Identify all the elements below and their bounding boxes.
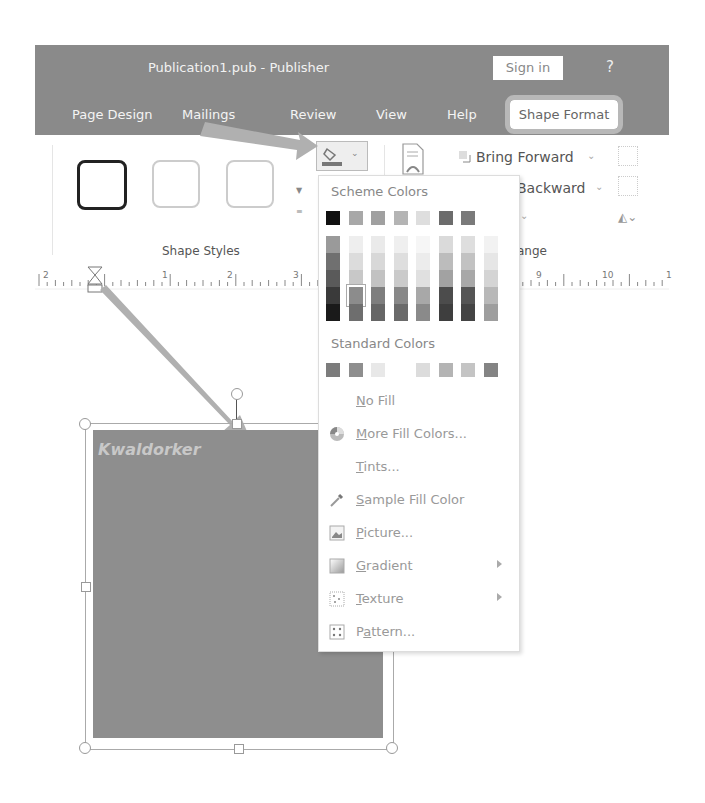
scheme-color-swatch[interactable] (349, 211, 363, 225)
standard-color-swatch[interactable] (461, 363, 475, 377)
scheme-tint-swatch[interactable] (484, 287, 498, 304)
chevron-down-icon[interactable]: ⌄ (520, 210, 528, 221)
menu-item-tints[interactable]: Tints... (319, 453, 519, 483)
scheme-tint-swatch[interactable] (371, 270, 385, 287)
scheme-tint-swatch[interactable] (484, 270, 498, 287)
resize-handle-bottom-right[interactable] (386, 742, 398, 754)
resize-handle-top[interactable] (232, 419, 242, 429)
ruler-label: 9 (536, 270, 542, 280)
scheme-tint-swatch[interactable] (461, 236, 475, 253)
resize-handle-bottom[interactable] (234, 744, 244, 754)
scheme-tint-swatch[interactable] (394, 304, 408, 321)
scheme-tint-swatch[interactable] (439, 270, 453, 287)
standard-color-swatch[interactable] (439, 363, 453, 377)
scheme-tint-swatch[interactable] (394, 270, 408, 287)
menu-item-sample-fill-color[interactable]: Sample Fill Color (319, 486, 519, 516)
scheme-tint-swatch[interactable] (371, 236, 385, 253)
scheme-tint-swatch[interactable] (326, 253, 340, 270)
scheme-tint-swatch[interactable] (484, 304, 498, 321)
scheme-tint-swatch[interactable] (326, 270, 340, 287)
scheme-tint-swatch[interactable] (416, 287, 430, 304)
resize-handle-bottom-left[interactable] (79, 742, 91, 754)
menu-item-no-fill[interactable]: No Fill (319, 387, 519, 417)
scheme-tint-swatch[interactable] (439, 304, 453, 321)
tab-mailings[interactable]: Mailings (182, 107, 235, 122)
scheme-color-swatch[interactable] (439, 211, 453, 225)
tab-shape-format[interactable]: Shape Format (510, 100, 618, 129)
standard-color-swatch[interactable] (416, 363, 430, 377)
menu-item-more-fill-colors[interactable]: More Fill Colors... (319, 420, 519, 450)
standard-color-swatch[interactable] (326, 363, 340, 377)
menu-item-label: No Fill (356, 393, 395, 408)
tab-review[interactable]: Review (290, 107, 336, 122)
shape-outline-doc-icon[interactable] (400, 142, 426, 176)
scheme-tint-swatch[interactable] (394, 287, 408, 304)
shape-text[interactable]: Kwaldorker (98, 440, 201, 459)
scheme-color-swatch[interactable] (461, 211, 475, 225)
indent-marker-icon[interactable] (86, 266, 104, 300)
scheme-color-swatch[interactable] (326, 211, 340, 225)
tab-page-design[interactable]: Page Design (72, 107, 153, 122)
resize-handle-left[interactable] (81, 582, 91, 592)
scheme-tint-swatch[interactable] (349, 304, 363, 321)
gallery-scroll-down-icon[interactable]: ▼ (296, 186, 302, 195)
standard-color-swatch[interactable] (484, 363, 498, 377)
ruler-label: 3 (293, 270, 299, 280)
rotation-handle[interactable] (231, 388, 243, 400)
menu-item-label: Sample Fill Color (356, 492, 464, 507)
scheme-tint-swatch[interactable] (461, 287, 475, 304)
scheme-tint-swatch[interactable] (416, 304, 430, 321)
gallery-more-icon[interactable]: ≡ (296, 207, 303, 216)
standard-color-swatch[interactable] (371, 363, 385, 377)
scheme-tint-swatch[interactable] (326, 236, 340, 253)
shape-style-2[interactable] (152, 160, 200, 208)
scheme-tint-swatch[interactable] (349, 253, 363, 270)
scheme-tint-swatch[interactable] (461, 270, 475, 287)
shape-style-1[interactable] (77, 160, 127, 210)
rotate-icon[interactable]: ◭⌄ (618, 210, 637, 224)
scheme-tint-swatch[interactable] (416, 236, 430, 253)
menu-item-picture[interactable]: Picture... (319, 519, 519, 549)
standard-color-swatch[interactable] (349, 363, 363, 377)
menu-item-pattern[interactable]: Pattern... (319, 618, 519, 648)
scheme-color-swatch[interactable] (371, 211, 385, 225)
menu-item-texture[interactable]: Texture (319, 585, 519, 615)
resize-handle-top-left[interactable] (79, 418, 91, 430)
scheme-tint-swatch[interactable] (371, 287, 385, 304)
scheme-tint-swatch[interactable] (484, 253, 498, 270)
menu-item-label: More Fill Colors... (356, 426, 467, 441)
scheme-tint-swatch[interactable] (326, 287, 340, 304)
scheme-tint-swatch[interactable] (394, 253, 408, 270)
scheme-tint-swatch[interactable] (439, 236, 453, 253)
tab-help[interactable]: Help (447, 107, 477, 122)
menu-item-gradient[interactable]: Gradient (319, 552, 519, 582)
shape-style-3[interactable] (226, 160, 274, 208)
scheme-tint-swatch[interactable] (439, 287, 453, 304)
help-button[interactable]: ? (606, 58, 614, 76)
selected-color-swatch[interactable] (349, 287, 363, 304)
scheme-tint-swatch[interactable] (439, 253, 453, 270)
scheme-tint-swatch[interactable] (326, 304, 340, 321)
align-icon[interactable] (618, 146, 638, 166)
bring-forward-button[interactable]: Bring Forward (476, 149, 574, 165)
scheme-color-swatch[interactable] (416, 211, 430, 225)
tab-view[interactable]: View (376, 107, 407, 122)
scheme-tint-swatch[interactable] (394, 236, 408, 253)
scheme-color-swatch[interactable] (394, 211, 408, 225)
scheme-tint-swatch[interactable] (349, 236, 363, 253)
scheme-tint-swatch[interactable] (461, 253, 475, 270)
scheme-tint-swatch[interactable] (371, 304, 385, 321)
scheme-tint-swatch[interactable] (484, 236, 498, 253)
scheme-tint-swatch[interactable] (371, 253, 385, 270)
group-icon[interactable] (618, 176, 638, 196)
scheme-tint-swatch[interactable] (416, 270, 430, 287)
scheme-tint-swatch[interactable] (461, 304, 475, 321)
shape-fill-button[interactable]: ⌄ (316, 141, 368, 171)
sign-in-button[interactable]: Sign in (493, 56, 563, 80)
scheme-tint-swatch[interactable] (349, 270, 363, 287)
send-backward-button[interactable]: Backward (517, 180, 585, 196)
chevron-down-icon[interactable]: ⌄ (595, 181, 603, 192)
scheme-tint-swatch[interactable] (416, 253, 430, 270)
chevron-down-icon[interactable]: ⌄ (587, 150, 595, 161)
standard-color-swatch[interactable] (394, 363, 408, 377)
